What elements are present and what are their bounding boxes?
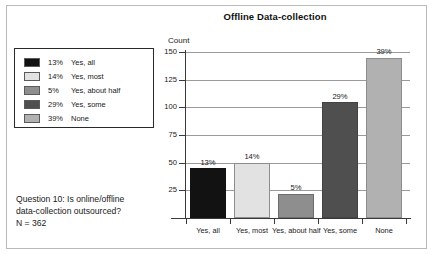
y-axis-line: [185, 50, 186, 219]
y-axis-label-50: 50: [155, 158, 177, 167]
x-axis-line: [171, 218, 411, 219]
chart-legend: 13% Yes, all 14% Yes, most 5% Yes, about…: [14, 48, 154, 128]
legend-swatch-icon: [24, 58, 40, 67]
question-caption: Question 10: Is online/offline data-coll…: [16, 193, 166, 230]
legend-item: 39% None: [24, 112, 153, 125]
legend-item-percent: 13%: [48, 58, 71, 67]
legend-item-percent: 39%: [48, 114, 71, 123]
bar-yes-most: [234, 163, 270, 218]
legend-item-percent: 29%: [48, 100, 71, 109]
figure-container: Offline Data-collection 13% Yes, all 14%…: [0, 0, 433, 255]
chart-title: Offline Data-collection: [160, 11, 390, 22]
bar-yes-some: [322, 102, 358, 218]
bar-label-yes-some: 29%: [322, 92, 358, 101]
x-tick-5: [406, 219, 407, 224]
legend-item: 5% Yes, about half: [24, 84, 153, 97]
bar-yes-about-half: [278, 194, 314, 218]
question-line-1: Question 10: Is online/offline: [16, 193, 166, 205]
legend-item-label: Yes, all: [71, 58, 95, 67]
legend-item-label: Yes, some: [71, 100, 106, 109]
bar-label-yes-about-half: 5%: [278, 183, 314, 192]
bar-label-yes-all: 13%: [190, 158, 226, 167]
x-tick-2: [274, 219, 275, 224]
y-tick-150: [179, 52, 185, 53]
question-line-2: data-collection outsourced?: [16, 205, 166, 217]
legend-swatch-icon: [24, 72, 40, 81]
sample-size-line: N = 362: [16, 217, 166, 229]
y-axis-title: Count: [168, 36, 189, 45]
bar-label-none: 39%: [366, 47, 402, 56]
bar-label-yes-most: 14%: [234, 152, 270, 161]
legend-swatch-icon: [24, 100, 40, 109]
y-tick-50: [179, 163, 185, 164]
x-axis-label-yes-most: Yes, most: [230, 226, 274, 235]
legend-item: 14% Yes, most: [24, 70, 153, 83]
y-axis-label-125: 125: [155, 75, 177, 84]
x-axis-label-yes-about-half: Yes, about half: [272, 226, 320, 235]
legend-item-label: None: [71, 114, 89, 123]
legend-swatch-icon: [24, 86, 40, 95]
x-tick-1: [230, 219, 231, 224]
y-axis-label-150: 150: [155, 47, 177, 56]
legend-item: 13% Yes, all: [24, 56, 153, 69]
x-tick-0: [186, 219, 187, 224]
legend-item-percent: 5%: [48, 86, 71, 95]
y-axis-label-100: 100: [155, 102, 177, 111]
y-tick-125: [179, 80, 185, 81]
x-tick-4: [362, 219, 363, 224]
x-axis-label-yes-all: Yes, all: [186, 226, 230, 235]
legend-item: 29% Yes, some: [24, 98, 153, 111]
legend-item-percent: 14%: [48, 72, 71, 81]
x-axis-label-none: None: [362, 226, 406, 235]
y-tick-75: [179, 135, 185, 136]
y-axis-label-25: 25: [155, 185, 177, 194]
y-tick-25: [179, 190, 185, 191]
y-tick-100: [179, 107, 185, 108]
legend-item-label: Yes, most: [71, 72, 104, 81]
y-axis-label-75: 75: [155, 130, 177, 139]
plot-area: 13% 14% 5% 29% 39%: [186, 52, 410, 218]
x-tick-3: [318, 219, 319, 224]
bar-none: [366, 58, 402, 219]
bar-yes-all: [190, 168, 226, 218]
legend-item-label: Yes, about half: [71, 86, 120, 95]
legend-swatch-icon: [24, 114, 40, 123]
x-axis-label-yes-some: Yes, some: [318, 226, 362, 235]
